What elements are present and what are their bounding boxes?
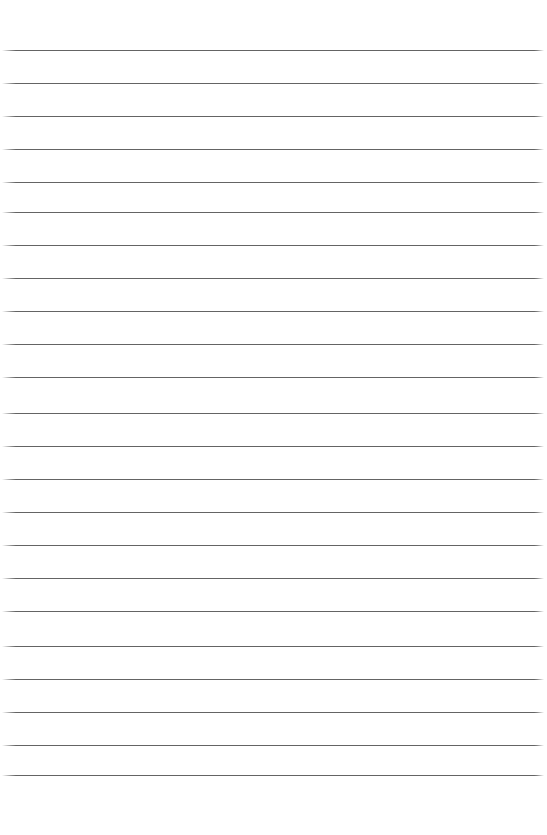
rule-line (2, 679, 544, 680)
rule-line (2, 182, 544, 183)
rule-line (2, 278, 544, 279)
rule-line (2, 545, 544, 546)
rule-line (2, 212, 544, 213)
rule-line (2, 149, 544, 150)
rule-line (2, 646, 544, 647)
rule-line (2, 479, 544, 480)
rule-line (2, 578, 544, 579)
rule-line (2, 50, 544, 51)
rule-line (2, 712, 544, 713)
rule-line (2, 745, 544, 746)
rule-line (2, 344, 544, 345)
rule-line (2, 446, 544, 447)
writing-area[interactable] (0, 0, 547, 835)
rule-line (2, 611, 544, 612)
ruled-paper-page (0, 0, 547, 835)
rule-line (2, 775, 544, 776)
rule-line (2, 116, 544, 117)
rule-line (2, 512, 544, 513)
rule-line (2, 413, 544, 414)
rule-line (2, 311, 544, 312)
rule-line (2, 245, 544, 246)
rule-line (2, 83, 544, 84)
rule-line (2, 377, 544, 378)
